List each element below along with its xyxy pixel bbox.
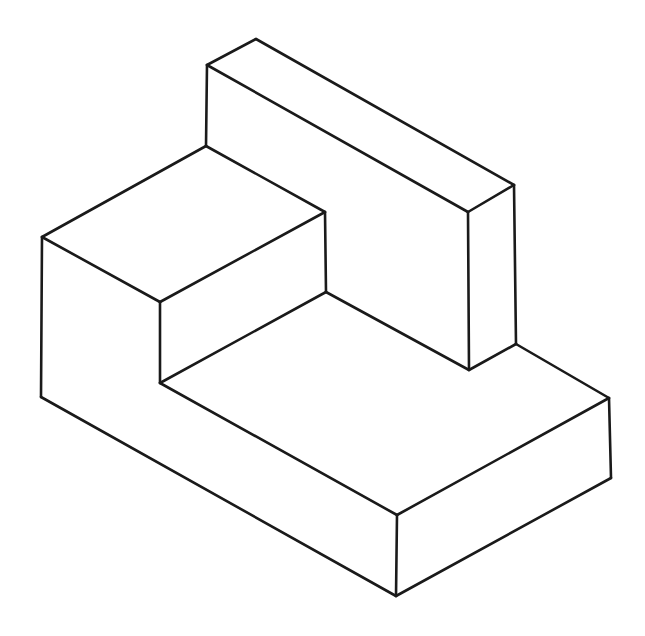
edge-EF: [469, 344, 516, 370]
edge-AC: [256, 39, 514, 185]
edge-GH: [609, 398, 611, 478]
edge-BQ: [206, 65, 207, 146]
edge-MO: [160, 212, 325, 302]
edge-FG: [516, 344, 609, 398]
edge-OP: [325, 212, 326, 292]
edge-LJ: [41, 397, 396, 596]
edge-QO: [206, 146, 325, 212]
edge-KM: [42, 237, 160, 302]
edge-CF: [514, 185, 516, 344]
isometric-block-drawing: [0, 0, 645, 636]
edge-DE: [468, 212, 469, 370]
edge-PE: [326, 292, 469, 370]
edge-CD: [468, 185, 514, 212]
edge-KQ: [42, 146, 206, 237]
edge-KL: [41, 237, 42, 397]
edge-IN: [160, 383, 397, 515]
edge-HJ: [396, 478, 611, 596]
edge-NP: [160, 292, 326, 383]
edge-AB: [207, 39, 256, 65]
edge-BD: [207, 65, 468, 212]
edge-IJ: [396, 515, 397, 596]
